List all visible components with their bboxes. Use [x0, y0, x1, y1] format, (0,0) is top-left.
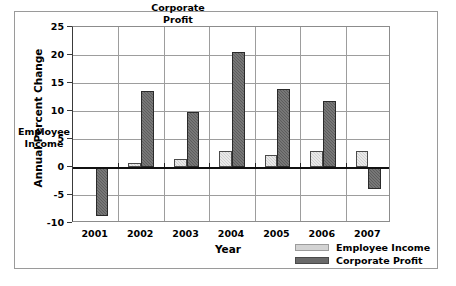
plot-inner	[73, 27, 389, 221]
bar-2003-corporate-profit	[187, 112, 200, 167]
x-tick-mark	[300, 163, 301, 167]
x-tick-mark	[209, 163, 210, 167]
y-tick-label: 15	[24, 77, 64, 88]
x-tick-label-2004: 2004	[205, 228, 257, 239]
gridline-vertical	[164, 27, 165, 221]
annotation-corporate-profit: Corporate Profit	[142, 2, 214, 25]
x-tick-label-2001: 2001	[69, 228, 121, 239]
chart-legend: Employee IncomeCorporate Profit	[295, 241, 430, 267]
bar-2007-corporate-profit	[368, 167, 381, 189]
bar-2006-corporate-profit	[323, 101, 336, 167]
y-tick-label: 10	[24, 105, 64, 116]
bar-2002-corporate-profit	[141, 91, 154, 167]
gridline-vertical	[209, 27, 210, 221]
bar-2004-corporate-profit	[232, 52, 245, 167]
gridline-vertical	[118, 27, 119, 221]
x-tick-mark	[164, 163, 165, 167]
x-tick-label-2006: 2006	[296, 228, 348, 239]
gridline-horizontal	[73, 83, 389, 84]
y-tick-mark	[67, 222, 72, 223]
gridline-horizontal	[73, 195, 389, 196]
x-tick-mark	[118, 163, 119, 167]
gridline-horizontal	[73, 139, 389, 140]
gridline-vertical	[255, 27, 256, 221]
x-tick-label-2007: 2007	[341, 228, 393, 239]
bar-2004-employee-income	[219, 151, 232, 167]
x-tick-mark	[346, 163, 347, 167]
gridline-vertical	[300, 27, 301, 221]
legend-item-employee-income[interactable]: Employee Income	[295, 241, 430, 254]
legend-label: Employee Income	[336, 242, 430, 253]
annotation-employee-income: Employee Income	[8, 126, 80, 149]
legend-label: Corporate Profit	[336, 255, 423, 266]
bar-2007-employee-income	[356, 151, 369, 167]
bar-2006-employee-income	[310, 151, 323, 167]
bar-2003-employee-income	[174, 159, 187, 167]
gridline-vertical	[346, 27, 347, 221]
x-tick-label-2003: 2003	[160, 228, 212, 239]
y-tick-label: -10	[24, 217, 64, 228]
zero-baseline	[73, 167, 389, 169]
x-tick-mark	[255, 163, 256, 167]
gridline-horizontal	[73, 111, 389, 112]
bar-2005-corporate-profit	[277, 89, 290, 167]
legend-item-corporate-profit[interactable]: Corporate Profit	[295, 254, 430, 267]
x-tick-label-2005: 2005	[250, 228, 302, 239]
bar-2005-employee-income	[265, 155, 278, 167]
y-tick-label: 0	[24, 161, 64, 172]
y-tick-label: 25	[24, 21, 64, 32]
bar-2001-corporate-profit	[96, 167, 109, 216]
legend-swatch-icon	[295, 244, 329, 251]
chart-figure: Annual Percent Change 2520151050-5-10 20…	[0, 0, 456, 286]
y-tick-label: -5	[24, 189, 64, 200]
x-tick-label-2002: 2002	[114, 228, 166, 239]
legend-swatch-icon	[295, 257, 329, 264]
plot-area	[72, 26, 390, 222]
gridline-horizontal	[73, 55, 389, 56]
y-tick-label: 20	[24, 49, 64, 60]
